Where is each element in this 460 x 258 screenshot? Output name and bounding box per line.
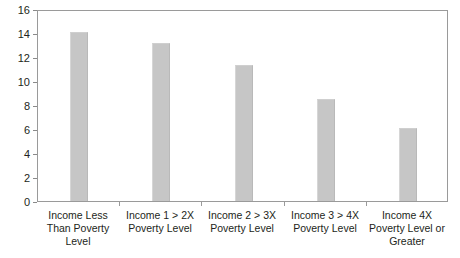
x-axis-category-label: Income LessThan PovertyLevel — [37, 209, 119, 248]
y-axis-tick-mark — [33, 58, 37, 59]
y-axis-tick-mark — [33, 82, 37, 83]
x-axis-category-label: Income 1 > 2XPoverty Level — [119, 209, 201, 235]
x-axis-ticks — [37, 202, 448, 207]
x-axis-category-label-line: Income Less — [37, 209, 119, 222]
x-axis-category-label-line: Income 4X — [366, 209, 448, 222]
bar — [70, 32, 88, 201]
x-axis-tick-mark — [366, 202, 367, 206]
y-axis: 0246810121416 — [0, 0, 30, 258]
y-axis-tick-mark — [33, 178, 37, 179]
y-axis-tick-label: 4 — [2, 149, 30, 160]
x-axis-category-label-line: Poverty Level or — [366, 222, 448, 235]
x-axis-tick-mark — [284, 202, 285, 206]
x-axis-category-label-line: Income 2 > 3X — [201, 209, 283, 222]
y-axis-tick-mark — [33, 130, 37, 131]
y-axis-tick-label: 12 — [2, 53, 30, 64]
y-axis-tick-label: 16 — [2, 5, 30, 16]
x-axis-tick-mark — [201, 202, 202, 206]
y-axis-tick-label: 10 — [2, 77, 30, 88]
x-axis-category-label: Income 3 > 4XPoverty Level — [284, 209, 366, 235]
x-axis-category-label-line: Income 1 > 2X — [119, 209, 201, 222]
x-axis-labels: Income LessThan PovertyLevelIncome 1 > 2… — [37, 209, 448, 258]
x-axis-tick-mark — [119, 202, 120, 206]
bars-layer — [38, 11, 447, 201]
y-axis-tick-mark — [33, 10, 37, 11]
y-axis-tick-mark — [33, 34, 37, 35]
y-axis-tick-label: 8 — [2, 101, 30, 112]
bar — [152, 43, 170, 201]
y-axis-tick-mark — [33, 154, 37, 155]
x-axis-category-label-line: Poverty Level — [119, 222, 201, 235]
bar-chart: 0246810121416 Income LessThan PovertyLev… — [0, 0, 460, 258]
plot-area — [37, 10, 448, 202]
bar — [399, 128, 417, 201]
y-axis-tick-label: 0 — [2, 197, 30, 208]
x-axis-category-label-line: Income 3 > 4X — [284, 209, 366, 222]
x-axis-category-label-line: Than Poverty — [37, 222, 119, 235]
y-axis-tick-label: 2 — [2, 173, 30, 184]
bar — [235, 65, 253, 201]
x-axis-category-label: Income 4XPoverty Level orGreater — [366, 209, 448, 248]
x-axis-category-label: Income 2 > 3XPoverty Level — [201, 209, 283, 235]
x-axis-category-label-line: Greater — [366, 235, 448, 248]
y-axis-tick-mark — [33, 106, 37, 107]
y-axis-tick-label: 14 — [2, 29, 30, 40]
x-axis-category-label-line: Poverty Level — [201, 222, 283, 235]
bar — [317, 99, 335, 201]
y-axis-tick-label: 6 — [2, 125, 30, 136]
x-axis-category-label-line: Poverty Level — [284, 222, 366, 235]
y-axis-tick-mark — [33, 202, 37, 203]
x-axis-category-label-line: Level — [37, 235, 119, 248]
